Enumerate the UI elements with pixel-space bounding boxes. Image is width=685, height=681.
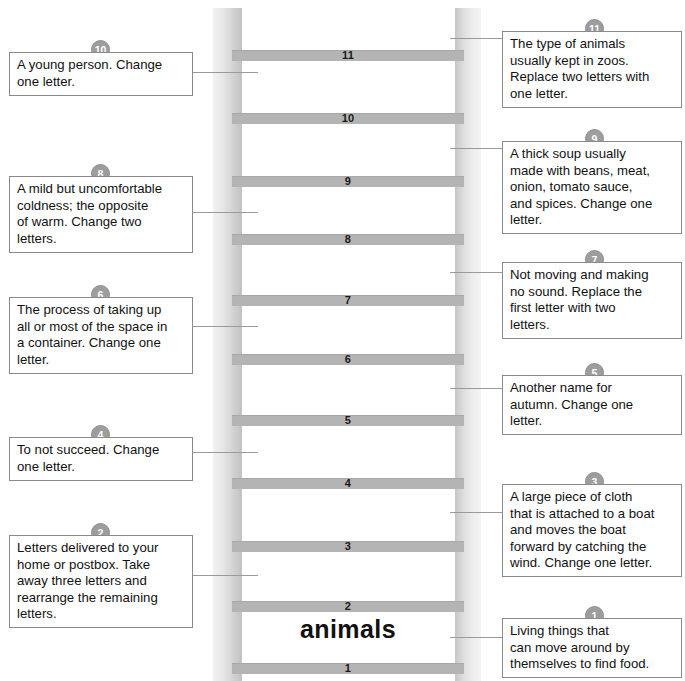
clue-text: The type of animals usually kept in zoos… xyxy=(510,36,674,102)
clue-box-left-6[interactable]: The process of taking up all or most of … xyxy=(9,297,193,374)
clue-text: Another name for autumn. Change one lett… xyxy=(510,380,674,430)
word-ladder-worksheet: 1110987654321 animals 10A young person. … xyxy=(0,0,685,681)
clue-box-left-2[interactable]: Letters delivered to your home or postbo… xyxy=(9,535,193,628)
ladder-bottom-word: animals xyxy=(232,615,464,644)
clue-box-right-11[interactable]: The type of animals usually kept in zoos… xyxy=(502,31,682,108)
ladder-rung-number: 6 xyxy=(232,354,464,365)
ladder-rung-number: 11 xyxy=(232,50,464,61)
clue-connector-line xyxy=(450,388,502,389)
clue-connector-line xyxy=(193,575,258,576)
clue-connector-line xyxy=(193,212,258,213)
clue-connector-line xyxy=(450,512,502,513)
clue-box-right-5[interactable]: Another name for autumn. Change one lett… xyxy=(502,375,682,435)
clue-text: The process of taking up all or most of … xyxy=(17,302,185,368)
clue-box-left-10[interactable]: A young person. Change one letter. xyxy=(9,52,193,96)
ladder-rung-number: 9 xyxy=(232,176,464,187)
clue-text: Living things that can move around by th… xyxy=(510,623,674,673)
clue-text: A young person. Change one letter. xyxy=(17,57,185,90)
clue-text: Not moving and making no sound. Replace … xyxy=(510,267,674,333)
clue-box-left-8[interactable]: A mild but uncomfortable coldness; the o… xyxy=(9,176,193,253)
ladder-rail-left xyxy=(213,8,242,681)
ladder-rung-number: 4 xyxy=(232,478,464,489)
clue-connector-line xyxy=(193,326,258,327)
clue-text: Letters delivered to your home or postbo… xyxy=(17,540,185,623)
ladder-rung-number: 2 xyxy=(232,601,464,612)
ladder-rung-number: 1 xyxy=(232,663,464,674)
clue-connector-line xyxy=(193,452,258,453)
ladder-rung-number: 10 xyxy=(232,113,464,124)
clue-connector-line xyxy=(450,272,502,273)
clue-box-right-1[interactable]: Living things that can move around by th… xyxy=(502,618,682,678)
clue-box-right-7[interactable]: Not moving and making no sound. Replace … xyxy=(502,262,682,339)
ladder-rail-right xyxy=(455,8,481,681)
clue-connector-line xyxy=(193,72,258,73)
clue-text: A thick soup usually made with beans, me… xyxy=(510,146,674,229)
clue-box-right-9[interactable]: A thick soup usually made with beans, me… xyxy=(502,141,682,234)
clue-connector-line xyxy=(450,148,502,149)
clue-box-left-4[interactable]: To not succeed. Change one letter. xyxy=(9,437,193,481)
ladder-rung-number: 7 xyxy=(232,295,464,306)
clue-text: A large piece of cloth that is attached … xyxy=(510,489,674,572)
clue-box-right-3[interactable]: A large piece of cloth that is attached … xyxy=(502,484,682,577)
clue-text: To not succeed. Change one letter. xyxy=(17,442,185,475)
ladder-rung-number: 8 xyxy=(232,234,464,245)
clue-connector-line xyxy=(450,38,502,39)
clue-text: A mild but uncomfortable coldness; the o… xyxy=(17,181,185,247)
ladder-rung-number: 5 xyxy=(232,415,464,426)
ladder-rung-number: 3 xyxy=(232,541,464,552)
clue-connector-line xyxy=(450,637,502,638)
